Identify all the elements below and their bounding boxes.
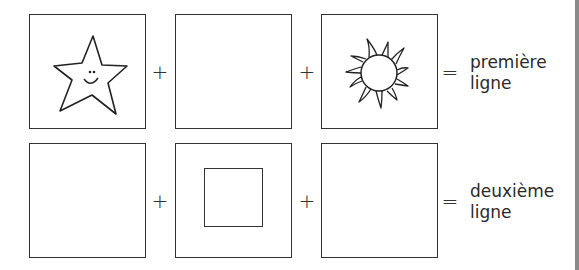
row1-label-line2: ligne bbox=[470, 73, 547, 94]
plus-operator: + bbox=[297, 62, 317, 82]
row2-box3 bbox=[321, 143, 438, 258]
row2-label-line1: deuxième bbox=[470, 181, 554, 202]
equals-operator: = bbox=[440, 62, 460, 82]
plus-operator: + bbox=[297, 191, 317, 211]
row2-label-line2: ligne bbox=[470, 202, 554, 223]
page-edge-bar bbox=[575, 0, 579, 270]
plus-operator: + bbox=[150, 191, 170, 211]
star-smiley-icon bbox=[30, 15, 147, 130]
row2-label: deuxième ligne bbox=[470, 181, 554, 223]
plus-operator: + bbox=[150, 62, 170, 82]
row1-box3 bbox=[321, 14, 438, 129]
equals-operator: = bbox=[440, 191, 460, 211]
row2-box1 bbox=[29, 143, 146, 258]
row1-box2 bbox=[175, 14, 292, 129]
sun-icon bbox=[322, 15, 439, 130]
small-square-shape bbox=[204, 168, 263, 227]
row1-label-line1: première bbox=[470, 52, 547, 73]
row1-label: première ligne bbox=[470, 52, 547, 94]
row2-box2 bbox=[175, 143, 292, 258]
row1-box1 bbox=[29, 14, 146, 129]
